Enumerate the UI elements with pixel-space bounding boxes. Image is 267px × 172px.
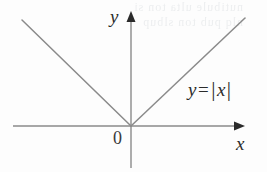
x-axis-arrowhead (234, 122, 245, 131)
absolute-value-graph-figure: nutibule ulta ton si nlq pub ton slbup y… (0, 0, 267, 172)
function-equation-label: y=|x| (188, 79, 233, 100)
y-axis-arrowhead (127, 11, 136, 22)
x-axis-label: x (236, 134, 244, 153)
absolute-bar-right: | (226, 77, 233, 101)
equation-equals-sign: = (197, 79, 210, 100)
equation-variable: x (217, 79, 226, 100)
curve-right-branch (131, 18, 245, 126)
absolute-bar-left: | (210, 77, 217, 101)
origin-label: 0 (113, 129, 122, 147)
absolute-value-curve-group (22, 18, 245, 126)
curve-left-branch (22, 20, 131, 126)
equation-lhs: y (188, 79, 197, 100)
y-axis-label: y (110, 7, 118, 26)
